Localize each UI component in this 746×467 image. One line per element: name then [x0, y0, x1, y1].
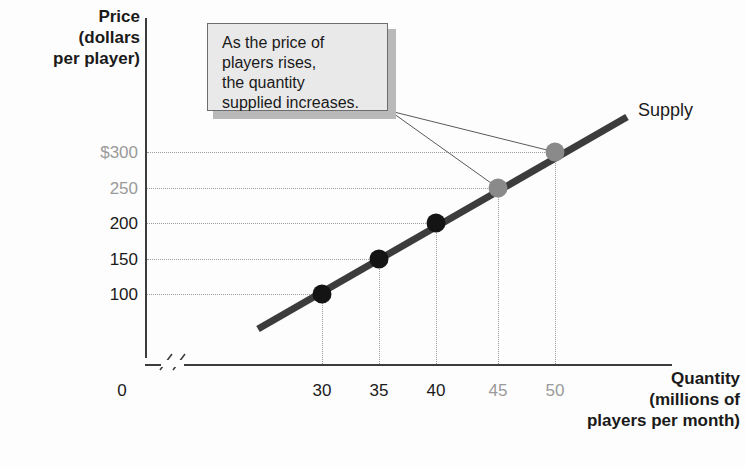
data-point-30-100 — [313, 285, 332, 304]
supply-curve-label: Supply — [638, 100, 693, 121]
axis-break-marks — [160, 354, 185, 370]
callout-text: As the price of players rises, the quant… — [222, 33, 387, 113]
supply-curve-figure: Price (dollars per player) Quantity (mil… — [0, 0, 746, 467]
data-point-50-300 — [546, 143, 565, 162]
callout-box: As the price of players rises, the quant… — [207, 23, 388, 111]
data-point-35-150 — [370, 250, 389, 269]
data-point-40-200 — [427, 214, 446, 233]
data-point-45-250 — [489, 179, 508, 198]
